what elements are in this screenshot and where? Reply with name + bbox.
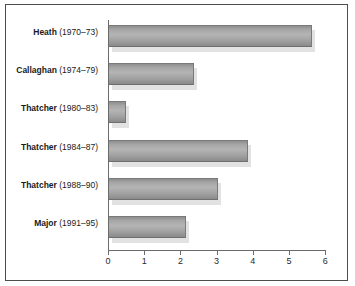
category-label: Major (1991–95) <box>34 218 98 229</box>
x-tick-label: 3 <box>207 256 227 267</box>
x-tick-label: 6 <box>315 256 335 267</box>
bar-container <box>109 178 218 205</box>
category-years: (1984–87) <box>57 142 98 152</box>
category-label: Thatcher (1980–83) <box>21 103 98 114</box>
bar <box>109 178 218 200</box>
category-label: Callaghan (1974–79) <box>16 65 98 76</box>
category-label: Thatcher (1984–87) <box>21 142 98 153</box>
bar <box>109 140 248 162</box>
bar-row: Major (1991–95) <box>0 211 355 249</box>
bar-row: Thatcher (1980–83) <box>0 96 355 134</box>
bar-container <box>109 25 312 52</box>
bar-container <box>109 101 126 128</box>
x-tick-label: 4 <box>243 256 263 267</box>
x-tick-mark <box>144 251 145 255</box>
category-years: (1980–83) <box>57 103 98 113</box>
bar-row: Thatcher (1984–87) <box>0 135 355 173</box>
bar-container <box>109 140 248 167</box>
x-tick-mark <box>217 251 218 255</box>
x-tick-label: 0 <box>98 256 118 267</box>
bar <box>109 63 194 85</box>
category-years: (1970–73) <box>57 27 98 37</box>
category-label: Thatcher (1988–90) <box>21 180 98 191</box>
x-tick-mark <box>108 251 109 255</box>
category-label: Heath (1970–73) <box>33 27 98 38</box>
category-years: (1974–79) <box>57 65 98 75</box>
bar-container <box>109 216 186 243</box>
category-name: Major <box>34 218 57 228</box>
x-tick-label: 1 <box>134 256 154 267</box>
x-tick-mark <box>180 251 181 255</box>
bar <box>109 25 312 47</box>
chart-figure: 0123456 Heath (1970–73)Callaghan (1974–7… <box>0 0 355 286</box>
bar-row: Heath (1970–73) <box>0 20 355 58</box>
x-tick-mark <box>253 251 254 255</box>
category-years: (1988–90) <box>57 180 98 190</box>
category-name: Thatcher <box>21 103 57 113</box>
x-tick-label: 2 <box>170 256 190 267</box>
x-tick-label: 5 <box>279 256 299 267</box>
bar-row: Thatcher (1988–90) <box>0 173 355 211</box>
category-name: Callaghan <box>16 65 57 75</box>
category-name: Heath <box>33 27 57 37</box>
x-tick-mark <box>289 251 290 255</box>
category-years: (1991–95) <box>57 218 98 228</box>
bar-container <box>109 63 194 90</box>
plot-area: 0123456 Heath (1970–73)Callaghan (1974–7… <box>0 0 355 286</box>
bar <box>109 101 126 123</box>
bar-row: Callaghan (1974–79) <box>0 58 355 96</box>
category-name: Thatcher <box>21 180 57 190</box>
x-tick-mark <box>325 251 326 255</box>
bar <box>109 216 186 238</box>
category-name: Thatcher <box>21 142 57 152</box>
